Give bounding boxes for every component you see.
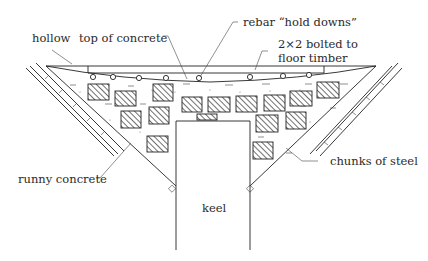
label-runny-concrete: runny concrete [18,172,107,186]
label-top-of-concrete: top of concrete [79,31,168,45]
keel [176,121,250,250]
floor-timber [46,66,376,82]
label-bolted-line1: 2×2 bolted to [278,37,358,51]
label-bolted-line2: floor timber [278,51,348,65]
label-keel: keel [202,201,227,215]
keel-ballast-diagram: hollow top of concrete rebar “hold downs… [0,0,428,261]
steel-chunks [88,82,339,159]
label-rebar-hold-downs: rebar “hold downs” [243,15,357,29]
rebar-hold-downs [90,72,311,80]
label-hollow: hollow [32,31,71,45]
label-chunks-of-steel: chunks of steel [330,154,418,168]
